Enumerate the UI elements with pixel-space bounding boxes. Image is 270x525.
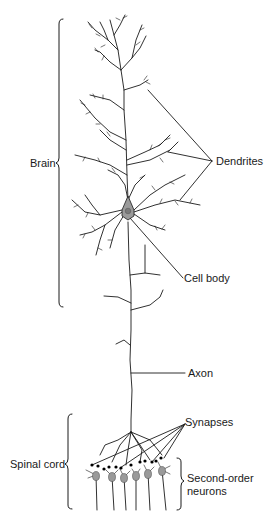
axon-line bbox=[128, 222, 132, 432]
apical-dendrite bbox=[110, 20, 128, 200]
label-second-order-2: neurons bbox=[187, 485, 227, 497]
label-synapses: Synapses bbox=[185, 416, 233, 428]
brain-brace bbox=[56, 19, 63, 307]
second-order-brace bbox=[177, 458, 184, 510]
label-axon: Axon bbox=[188, 367, 213, 379]
label-dendrites: Dendrites bbox=[216, 155, 263, 167]
label-brain: Brain bbox=[30, 157, 56, 169]
label-cell-body: Cell body bbox=[184, 272, 230, 284]
cell-body bbox=[122, 196, 134, 220]
label-spinal-cord: Spinal cord bbox=[10, 458, 65, 470]
synapses-leader bbox=[92, 424, 185, 468]
neuron-diagram bbox=[0, 0, 270, 525]
label-second-order-1: Second-order bbox=[187, 472, 254, 484]
spinal-cord-brace bbox=[65, 414, 72, 509]
dendrites-leader bbox=[148, 90, 212, 200]
